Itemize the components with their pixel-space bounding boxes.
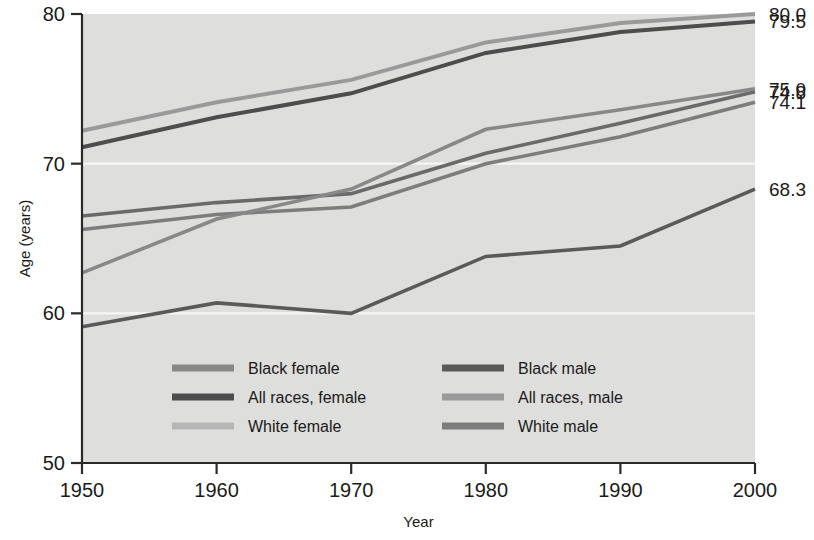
legend-swatch-white-male	[442, 423, 504, 430]
end-value-label-79-5: 79.5	[769, 11, 806, 32]
end-value-label-74-1: 74.1	[769, 92, 806, 113]
x-tick-label-1990: 1990	[598, 479, 643, 501]
legend-swatch-all-races-male	[442, 394, 504, 401]
legend-label-black-female: Black female	[248, 360, 340, 377]
chart-canvas: 50607080195019601970198019902000YearAge …	[0, 0, 814, 540]
x-tick-label-1980: 1980	[464, 479, 509, 501]
legend-swatch-black-male	[442, 365, 504, 372]
x-tick-label-1950: 1950	[60, 479, 105, 501]
y-tick-label-60: 60	[43, 302, 65, 324]
y-tick-label-50: 50	[43, 452, 65, 474]
y-tick-label-70: 70	[43, 153, 65, 175]
legend-swatch-all-races-female	[172, 394, 234, 401]
x-tick-label-1960: 1960	[194, 479, 239, 501]
end-value-label-68-3: 68.3	[769, 179, 806, 200]
x-tick-label-2000: 2000	[733, 479, 778, 501]
legend-label-all-races-male: All races, male	[518, 389, 623, 406]
legend-label-black-male: Black male	[518, 360, 596, 377]
x-tick-label-1970: 1970	[329, 479, 374, 501]
x-axis-title: Year	[403, 513, 433, 530]
legend-label-all-races-female: All races, female	[248, 389, 366, 406]
life-expectancy-chart: 50607080195019601970198019902000YearAge …	[0, 0, 814, 540]
legend-label-white-male: White male	[518, 418, 598, 435]
legend-label-white-female: White female	[248, 418, 341, 435]
y-tick-label-80: 80	[43, 3, 65, 25]
legend-swatch-white-female	[172, 423, 234, 430]
y-axis-title: Age (years)	[16, 200, 33, 278]
legend-swatch-black-female	[172, 365, 234, 372]
